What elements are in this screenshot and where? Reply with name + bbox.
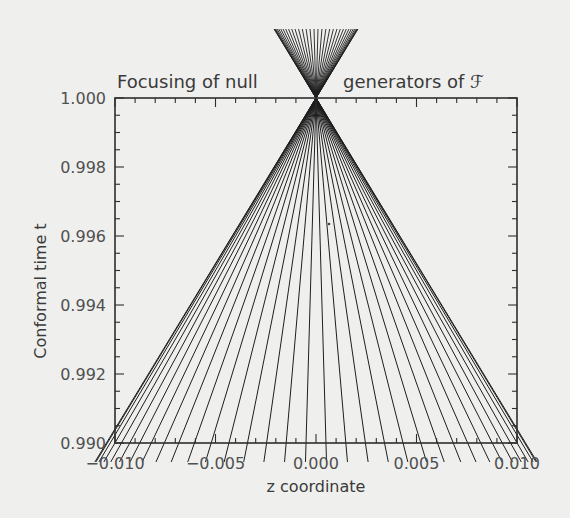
x-tick-labels: −0.010−0.0050.0000.0050.010 bbox=[85, 454, 540, 473]
chart-title-left: Focusing of null bbox=[117, 71, 258, 92]
null-generator-line bbox=[205, 98, 316, 462]
null-generator-line bbox=[316, 98, 513, 462]
y-tick-label: 0.996 bbox=[60, 227, 106, 246]
null-generator-line bbox=[130, 98, 316, 462]
x-tick-label: −0.005 bbox=[186, 454, 245, 473]
chart-figure: −0.010−0.0050.0000.0050.010 0.9900.9920.… bbox=[0, 0, 570, 518]
y-tick-label: 0.992 bbox=[60, 365, 106, 384]
null-generator-line bbox=[316, 98, 476, 462]
y-axis-label: Conformal time t bbox=[31, 223, 50, 358]
x-tick-label: 0.010 bbox=[494, 454, 540, 473]
null-generator-line bbox=[316, 98, 502, 462]
y-tick-labels: 0.9900.9920.9940.9960.9981.000 bbox=[60, 89, 106, 453]
null-generator-line bbox=[316, 98, 528, 462]
null-generator-line bbox=[316, 98, 347, 462]
x-tick-label: 0.000 bbox=[293, 454, 339, 473]
x-tick-label: 0.005 bbox=[394, 454, 440, 473]
null-generator-lines bbox=[95, 29, 537, 462]
x-axis-label: z coordinate bbox=[267, 477, 366, 496]
plot-frame bbox=[115, 98, 517, 443]
null-generator-line bbox=[316, 98, 388, 462]
null-generator-line bbox=[171, 98, 316, 462]
null-generator-line bbox=[119, 98, 316, 462]
null-generator-line bbox=[305, 98, 316, 462]
y-tick-label: 0.990 bbox=[60, 434, 106, 453]
null-generator-line bbox=[316, 98, 521, 462]
null-generator-line bbox=[285, 98, 316, 462]
null-generator-line bbox=[156, 98, 316, 462]
y-tick-label: 0.998 bbox=[60, 158, 106, 177]
null-generator-line bbox=[316, 98, 537, 462]
null-generator-line bbox=[316, 98, 408, 462]
stray-dot bbox=[328, 223, 331, 226]
null-generator-line bbox=[316, 98, 427, 462]
null-generator-line bbox=[316, 98, 461, 462]
y-tick-label: 1.000 bbox=[60, 89, 106, 108]
null-generator-line bbox=[224, 98, 316, 462]
y-tick-label: 0.994 bbox=[60, 296, 106, 315]
x-tick-label: −0.010 bbox=[85, 454, 144, 473]
null-generator-line bbox=[111, 98, 316, 462]
null-generator-line bbox=[244, 98, 316, 462]
axis-ticks bbox=[115, 98, 517, 443]
chart-title-right: generators of ℱ bbox=[343, 71, 484, 92]
null-generator-line bbox=[104, 98, 316, 462]
null-generator-line bbox=[316, 98, 327, 462]
